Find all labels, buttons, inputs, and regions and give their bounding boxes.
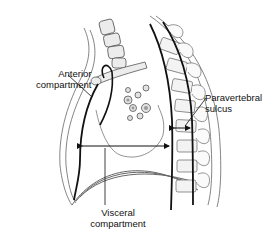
paravertebral-sulcus-label: Paravertebral sulcus: [205, 92, 262, 114]
great-vessels: [91, 18, 147, 85]
paravertebral-label-line2: sulcus: [205, 103, 262, 114]
mediastinum-diagram: [0, 0, 270, 235]
anterior-label-line2: compartment: [36, 79, 91, 90]
visceral-compartment-label: Visceral compartment: [78, 207, 158, 229]
anterior-compartment-label: Anterior compartment: [36, 68, 91, 90]
paravertebral-label-line1: Paravertebral: [205, 92, 262, 103]
visceral-label-line2: compartment: [78, 218, 158, 229]
anterior-label-line1: Anterior: [36, 68, 91, 79]
hilar-vessels: [124, 85, 151, 121]
visceral-label-line1: Visceral: [78, 207, 158, 218]
